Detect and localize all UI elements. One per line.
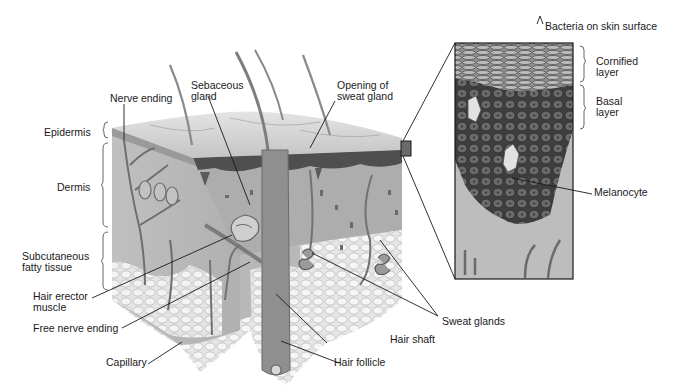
label-sebaceous-gland-line2: gland [191,91,217,103]
label-hair-erector-muscle-line2: muscle [33,302,66,314]
label-subcutaneous-line2: fatty tissue [22,262,72,274]
label-opening-sweat-gland-line2: sweat gland [337,91,393,103]
label-free-nerve-ending: Free nerve ending [33,323,118,335]
label-dermis: Dermis [57,182,90,194]
label-capillary: Capillary [106,357,147,369]
label-nerve-ending: Nerve ending [110,93,172,105]
label-epidermis: Epidermis [44,127,91,139]
skin-diagram: Nerve ending Sebaceous gland Opening of … [0,0,675,391]
label-sweat-glands: Sweat glands [442,316,505,328]
label-hair-shaft: Hair shaft [390,334,435,346]
label-melanocyte: Melanocyte [594,187,648,199]
inset-magnified-epidermis [455,43,573,279]
label-bacteria-on-skin-surface: Bacteria on skin surface [545,21,657,33]
label-hair-follicle: Hair follicle [334,357,385,369]
label-basal-layer-line2: layer [596,107,619,119]
label-cornified-layer-line2: layer [596,67,619,79]
